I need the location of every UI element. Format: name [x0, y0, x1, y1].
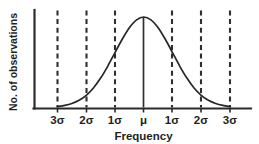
- normal-distribution-chart: 3σ 2σ 1σ μ 1σ 2σ 3σ Frequency No. of obs…: [0, 0, 259, 144]
- x-axis-tick-labels: 3σ 2σ 1σ μ 1σ 2σ 3σ: [50, 114, 237, 126]
- sigma-marker-lines: [58, 11, 231, 108]
- plot-axes: [34, 10, 252, 109]
- tick-label-mu: μ: [140, 114, 147, 126]
- tick-label-minus-2sigma: 2σ: [79, 114, 93, 126]
- tick-label-plus-2sigma: 2σ: [194, 114, 208, 126]
- tick-label-plus-1sigma: 1σ: [165, 114, 179, 126]
- y-axis-title: No. of observations: [7, 13, 19, 111]
- tick-label-minus-1sigma: 1σ: [108, 114, 122, 126]
- x-axis-title: Frequency: [114, 130, 173, 142]
- tick-label-minus-3sigma: 3σ: [50, 114, 64, 126]
- tick-label-plus-3sigma: 3σ: [223, 114, 237, 126]
